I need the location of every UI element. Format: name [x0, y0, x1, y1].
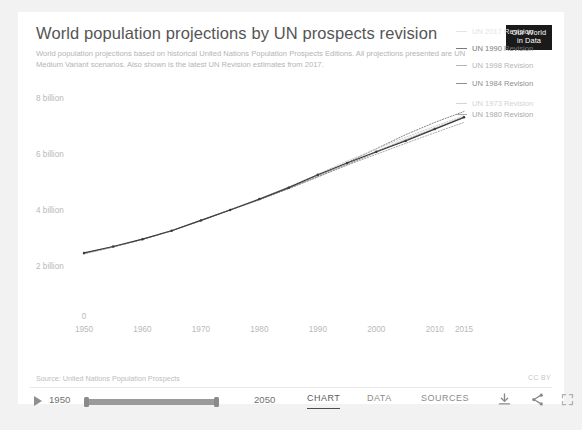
y-tick-label: 6 billion	[36, 150, 64, 159]
legend-swatch	[456, 114, 467, 115]
chart-subtitle: World population projections based on hi…	[36, 48, 488, 70]
tab-data[interactable]: DATA	[367, 393, 392, 408]
series-group	[83, 111, 466, 254]
timeline-handle-left[interactable]	[84, 397, 89, 407]
fullscreen-icon[interactable]	[560, 392, 575, 407]
legend-swatch	[456, 48, 467, 49]
data-point[interactable]	[346, 162, 349, 165]
data-point[interactable]	[170, 230, 173, 233]
x-tick-label: 1960	[122, 325, 162, 334]
x-tick-label: 2015	[444, 325, 484, 334]
legend-swatch	[456, 103, 467, 104]
y-tick-label: 4 billion	[36, 206, 64, 215]
series-line	[84, 111, 464, 253]
series-line	[84, 116, 464, 254]
tab-chart[interactable]: CHART	[307, 393, 340, 409]
data-point[interactable]	[258, 198, 261, 201]
series-line	[84, 122, 464, 253]
data-point[interactable]	[434, 128, 437, 131]
tab-sources[interactable]: SOURCES	[421, 393, 469, 408]
data-point[interactable]	[141, 238, 144, 241]
legend-label: UN 2017 Revision	[472, 26, 533, 37]
x-tick-label: 1950	[64, 325, 104, 334]
data-point[interactable]	[112, 245, 115, 248]
legend-swatch	[456, 65, 467, 66]
x-tick-label: 2000	[356, 325, 396, 334]
data-point[interactable]	[404, 140, 407, 143]
data-point[interactable]	[200, 219, 203, 222]
y-tick-label: 2 billion	[36, 262, 64, 271]
plot-area[interactable]: 2 billion4 billion6 billion8 billion 019…	[36, 94, 548, 366]
x-tick-label: 1980	[239, 325, 279, 334]
series-line	[84, 117, 464, 253]
data-point[interactable]	[463, 116, 466, 119]
data-point[interactable]	[317, 174, 320, 177]
legend-label: UN 1980 Revision	[472, 109, 533, 120]
chart-card: World population projections by UN prosp…	[18, 12, 564, 404]
chart-controls: 1950 2050 CHART DATA SOURCES	[30, 388, 552, 416]
timeline-handle-right[interactable]	[214, 397, 219, 407]
source-text: Source: United Nations Population Prospe…	[36, 374, 180, 383]
page-background: World population projections by UN prosp…	[0, 0, 582, 430]
legend-label: UN 1990 Revision	[472, 43, 533, 54]
play-icon[interactable]	[34, 396, 42, 406]
license-label: CC BY	[528, 374, 551, 381]
legend-label: UN 1984 Revision	[472, 78, 533, 89]
timeline-start-year: 1950	[49, 394, 70, 405]
legend-label: UN 1998 Revision	[472, 60, 533, 71]
legend-swatch	[456, 31, 467, 32]
series-line	[84, 117, 464, 254]
data-point[interactable]	[83, 252, 86, 255]
legend-label: UN 1973 Revision	[472, 98, 533, 109]
data-point[interactable]	[229, 209, 232, 212]
data-point[interactable]	[375, 151, 378, 154]
download-icon[interactable]	[497, 392, 512, 407]
timeline-end-year: 2050	[254, 394, 275, 405]
share-icon[interactable]	[530, 392, 545, 407]
data-point[interactable]	[287, 186, 290, 189]
legend-swatch	[456, 83, 467, 84]
timeline-slider[interactable]	[85, 399, 218, 405]
chart-header: World population projections by UN prosp…	[36, 24, 506, 70]
x-tick-label: 1990	[298, 325, 338, 334]
series-line	[84, 117, 464, 253]
page-title: World population projections by UN prosp…	[36, 24, 506, 44]
y-tick-label: 8 billion	[36, 94, 64, 103]
x-tick-label: 1970	[181, 325, 221, 334]
axis-zero-label: 0	[64, 312, 104, 321]
